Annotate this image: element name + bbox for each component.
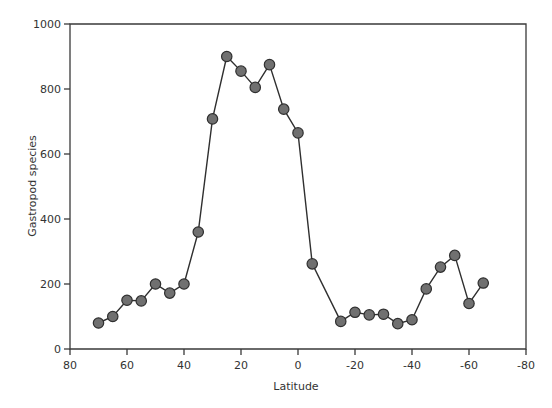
chart-canvas: 806040200-20-40-60-80 02004006008001000 … [0, 0, 552, 408]
data-point-marker [264, 59, 274, 69]
data-point-marker [279, 104, 289, 114]
data-point-marker [136, 296, 146, 306]
x-tick-label: 80 [63, 359, 77, 372]
y-tick-label: 200 [40, 278, 61, 291]
x-tick-label: 60 [120, 359, 134, 372]
x-axis-title: Latitude [273, 380, 319, 393]
data-point-marker [364, 310, 374, 320]
y-tick-label: 800 [40, 83, 61, 96]
data-point-marker [307, 259, 317, 269]
data-series [93, 51, 488, 329]
y-tick-label: 1000 [33, 18, 61, 31]
y-tick-label: 0 [54, 343, 61, 356]
x-tick-label: 40 [177, 359, 191, 372]
data-point-marker [93, 318, 103, 328]
data-point-marker [350, 307, 360, 317]
x-tick-label: -80 [517, 359, 535, 372]
data-point-marker [450, 250, 460, 260]
x-axis: 806040200-20-40-60-80 [63, 349, 535, 372]
y-tick-label: 400 [40, 213, 61, 226]
data-point-marker [421, 284, 431, 294]
data-point-marker [393, 318, 403, 328]
data-point-marker [179, 279, 189, 289]
y-axis-title: Gastropod species [26, 135, 39, 237]
data-point-marker [108, 311, 118, 321]
data-point-marker [207, 114, 217, 124]
data-point-marker [250, 82, 260, 92]
x-tick-label: 0 [295, 359, 302, 372]
x-tick-label: -20 [346, 359, 364, 372]
data-point-marker [122, 295, 132, 305]
data-point-marker [222, 51, 232, 61]
data-point-marker [336, 316, 346, 326]
y-tick-label: 600 [40, 148, 61, 161]
data-point-marker [378, 309, 388, 319]
data-point-marker [293, 128, 303, 138]
data-point-marker [464, 298, 474, 308]
data-point-marker [165, 288, 175, 298]
data-point-marker [435, 262, 445, 272]
data-point-marker [193, 227, 203, 237]
data-point-marker [478, 278, 488, 288]
data-point-marker [236, 66, 246, 76]
chart: 806040200-20-40-60-80 02004006008001000 … [0, 0, 552, 408]
x-tick-label: 20 [234, 359, 248, 372]
data-point-marker [150, 279, 160, 289]
x-tick-label: -40 [403, 359, 421, 372]
data-point-marker [407, 315, 417, 325]
x-tick-label: -60 [460, 359, 478, 372]
